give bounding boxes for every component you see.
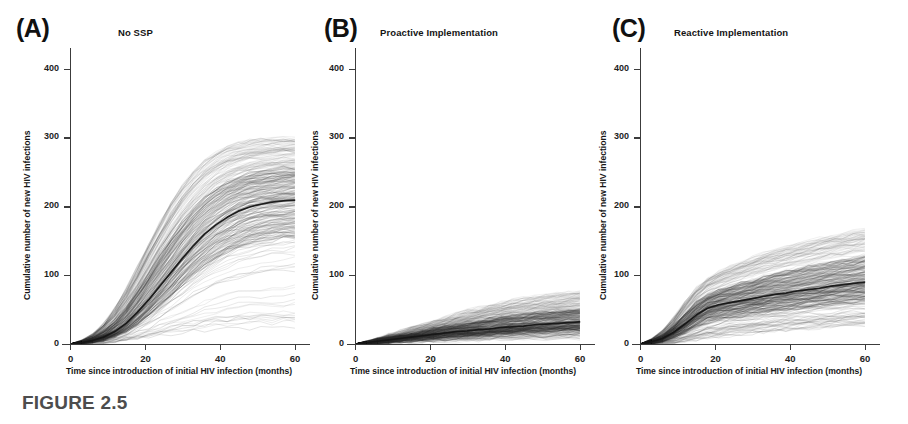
panel-c-x-axis <box>632 344 880 345</box>
panel-c-y-axis-label: Cumulative number of new HIV infections <box>598 130 608 300</box>
panel-b-y-tick-label: 0 <box>339 338 344 348</box>
panel-b-x-tick: 60 <box>580 344 581 350</box>
panel-a-x-tick: 60 <box>295 344 296 350</box>
panel-b-y-tick-label: 100 <box>329 269 344 279</box>
panel-a-y-tick: 200 <box>64 206 70 207</box>
panel-b-x-tick: 20 <box>430 344 431 350</box>
panel-b-x-tick-label: 20 <box>425 353 436 364</box>
panel-b-x-axis <box>347 344 595 345</box>
panel-c-y-tick-label: 400 <box>614 63 629 73</box>
panel-a-letter: (A) <box>16 14 49 43</box>
panel-a-x-axis <box>62 344 310 345</box>
panel-a-y-axis <box>70 48 71 344</box>
panel-b-y-tick: 200 <box>349 206 355 207</box>
panel-a-y-tick-label: 200 <box>44 200 59 210</box>
figure-2-5: (A) No SSP Cumulative number of new HIV … <box>0 0 908 424</box>
panel-b-title: Proactive Implementation <box>380 27 498 38</box>
panel-a-y-tick-label: 100 <box>44 269 59 279</box>
panel-a-x-tick: 40 <box>220 344 221 350</box>
panel-a-x-tick-label: 20 <box>140 353 151 364</box>
panel-c-y-tick-label: 200 <box>614 200 629 210</box>
panel-b-x-tick-label: 60 <box>575 353 586 364</box>
panel-b-plot-area: 0100200300400 0204060 <box>355 48 587 344</box>
panel-b-y-axis-label: Cumulative number of new HIV infections <box>310 130 320 300</box>
panel-a-y-tick-label: 0 <box>54 338 59 348</box>
panel-c-x-tick: 60 <box>865 344 866 350</box>
panel-c-y-tick-label: 300 <box>614 131 629 141</box>
panel-a-plot-area: 0100200300400 0204060 <box>70 48 302 344</box>
figure-caption: FIGURE 2.5 <box>22 392 127 414</box>
panel-c-letter: (C) <box>612 14 645 43</box>
panel-b-x-tick: 40 <box>505 344 506 350</box>
panel-b-y-tick: 400 <box>349 69 355 70</box>
panel-a-x-tick-label: 40 <box>215 353 226 364</box>
panel-c-trajectories <box>640 48 872 344</box>
panel-c-y-tick: 300 <box>634 137 640 138</box>
panel-b-y-axis <box>355 48 356 344</box>
panel-a-x-tick-label: 60 <box>290 353 301 364</box>
panel-c-x-tick: 0 <box>640 344 641 350</box>
panel-c-x-tick-label: 0 <box>638 353 643 364</box>
panel-c-x-axis-label: Time since introduction of initial HIV i… <box>624 366 874 376</box>
panel-a-y-tick: 100 <box>64 275 70 276</box>
panel-a-x-tick: 0 <box>70 344 71 350</box>
panel-b-x-tick: 0 <box>355 344 356 350</box>
panel-b-y-tick-label: 300 <box>329 131 344 141</box>
panel-c-x-tick-label: 60 <box>860 353 871 364</box>
panel-a-trajectories <box>70 48 302 344</box>
panel-b-x-tick-label: 40 <box>500 353 511 364</box>
panel-c-y-axis <box>640 48 641 344</box>
panel-b-x-axis-label: Time since introduction of initial HIV i… <box>338 366 588 376</box>
panel-b-y-tick-label: 200 <box>329 200 344 210</box>
panel-b-trajectories <box>355 48 587 344</box>
panel-c-y-tick-label: 100 <box>614 269 629 279</box>
panel-c: (C) Reactive Implementation Cumulative n… <box>594 0 908 386</box>
panel-c-x-tick: 20 <box>715 344 716 350</box>
panel-c-plot-area: 0100200300400 0204060 <box>640 48 872 344</box>
panel-b-y-tick: 100 <box>349 275 355 276</box>
panel-a-title: No SSP <box>118 27 153 38</box>
panel-c-x-tick-label: 20 <box>710 353 721 364</box>
panel-a-y-tick: 400 <box>64 69 70 70</box>
panel-b-x-tick-label: 0 <box>353 353 358 364</box>
panel-b-y-tick: 300 <box>349 137 355 138</box>
panel-container: (A) No SSP Cumulative number of new HIV … <box>0 0 908 386</box>
panel-a-x-tick-label: 0 <box>68 353 73 364</box>
panel-a-x-tick: 20 <box>145 344 146 350</box>
panel-c-title: Reactive Implementation <box>674 27 788 38</box>
panel-c-x-tick-label: 40 <box>785 353 796 364</box>
panel-c-y-tick: 400 <box>634 69 640 70</box>
panel-a-y-axis-label: Cumulative number of new HIV infections <box>22 130 32 300</box>
panel-a-y-tick: 300 <box>64 137 70 138</box>
panel-a-x-axis-label: Time since introduction of initial HIV i… <box>54 366 304 376</box>
panel-a-y-tick-label: 300 <box>44 131 59 141</box>
panel-c-y-tick: 200 <box>634 206 640 207</box>
panel-c-y-tick: 100 <box>634 275 640 276</box>
panel-c-y-tick-label: 0 <box>624 338 629 348</box>
panel-a: (A) No SSP Cumulative number of new HIV … <box>0 0 310 386</box>
panel-b-y-tick-label: 400 <box>329 63 344 73</box>
panel-a-y-tick-label: 400 <box>44 63 59 73</box>
panel-b: (B) Proactive Implementation Cumulative … <box>302 0 602 386</box>
panel-b-letter: (B) <box>324 14 357 43</box>
panel-c-x-tick: 40 <box>790 344 791 350</box>
